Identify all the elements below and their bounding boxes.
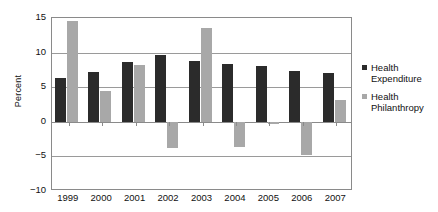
bar-group-2004 xyxy=(219,18,252,189)
bar-group-2001 xyxy=(119,18,152,189)
x-tick-label-2004: 2004 xyxy=(218,192,252,203)
square-marker-icon xyxy=(362,65,367,70)
x-tick-label-2007: 2007 xyxy=(318,192,352,203)
x-tick-label-2002: 2002 xyxy=(151,192,185,203)
legend-label-line1: Health xyxy=(371,62,398,73)
x-axis-tick-labels: 199920002001200220032004200520062007 xyxy=(51,192,352,208)
bar-2001-series-1 xyxy=(134,65,145,122)
bar-group-1999 xyxy=(52,18,85,189)
x-tick-2002 xyxy=(169,122,170,126)
bar-2000-series-1 xyxy=(100,91,111,122)
bar-group-2006 xyxy=(286,18,319,189)
x-tick-2000 xyxy=(102,122,103,126)
bar-2007-series-1 xyxy=(335,100,346,122)
chart-legend: Health Expenditure Health Philanthropy xyxy=(362,62,438,120)
bar-group-2005 xyxy=(253,18,286,189)
bar-2000-series-0 xyxy=(88,72,99,122)
bar-2002-series-0 xyxy=(155,55,166,121)
bar-chart-figure: Percent 151050−5−10 19992000200120022003… xyxy=(0,0,438,212)
x-tick-label-2006: 2006 xyxy=(285,192,319,203)
bar-group-2000 xyxy=(85,18,118,189)
bar-1999-series-0 xyxy=(55,78,66,122)
y-tick-label-15: 15 xyxy=(20,12,46,22)
x-tick-2003 xyxy=(203,122,204,126)
legend-label-line1: Health xyxy=(371,91,398,102)
bar-2007-series-0 xyxy=(323,73,334,122)
bars-layer xyxy=(52,18,351,189)
y-axis-tick-labels: 151050−5−10 xyxy=(20,0,46,212)
x-tick-label-2005: 2005 xyxy=(251,192,285,203)
x-tick-2007 xyxy=(336,122,337,126)
x-tick-label-2000: 2000 xyxy=(84,192,118,203)
x-tick-1999 xyxy=(69,122,70,126)
bar-2005-series-0 xyxy=(256,66,267,121)
bar-2003-series-1 xyxy=(201,28,212,121)
legend-label-health-expenditure: Health Expenditure xyxy=(371,62,422,84)
bar-1999-series-1 xyxy=(67,21,78,122)
legend-label-line2: Expenditure xyxy=(371,73,422,84)
x-tick-2004 xyxy=(236,122,237,126)
square-marker-icon xyxy=(362,94,367,99)
legend-entry-health-philanthropy: Health Philanthropy xyxy=(362,91,438,113)
y-tick-label-5: 5 xyxy=(20,81,46,91)
x-tick-2006 xyxy=(303,122,304,126)
bar-2006-series-0 xyxy=(289,71,300,122)
x-tick-2005 xyxy=(269,122,270,126)
plot-area xyxy=(51,17,352,190)
y-tick-label--5: −5 xyxy=(20,150,46,160)
x-tick-label-2003: 2003 xyxy=(185,192,219,203)
legend-label-line2: Philanthropy xyxy=(371,102,424,113)
bar-2001-series-0 xyxy=(122,62,133,122)
legend-label-health-philanthropy: Health Philanthropy xyxy=(371,91,424,113)
legend-entry-health-expenditure: Health Expenditure xyxy=(362,62,438,84)
bar-group-2007 xyxy=(320,18,353,189)
y-tick-label-0: 0 xyxy=(20,116,46,126)
x-tick-label-2001: 2001 xyxy=(118,192,152,203)
bar-2004-series-0 xyxy=(222,64,233,121)
y-tick-label-10: 10 xyxy=(20,47,46,57)
bar-group-2003 xyxy=(186,18,219,189)
bar-2003-series-0 xyxy=(189,61,200,122)
bar-group-2002 xyxy=(152,18,185,189)
x-tick-label-1999: 1999 xyxy=(51,192,85,203)
bar-2006-series-1 xyxy=(301,122,312,155)
y-tick-label--10: −10 xyxy=(20,185,46,195)
x-tick-2001 xyxy=(136,122,137,126)
